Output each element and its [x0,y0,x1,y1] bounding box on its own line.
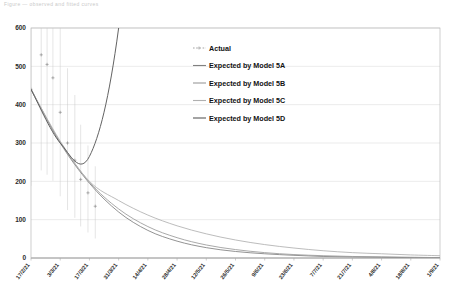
x-tick-label: 18/8/21 [394,262,410,280]
legend-item[interactable]: Expected by Model 5C [193,96,285,105]
y-tick-label: 400 [15,101,26,108]
x-tick-label: 1/9/21 [425,262,439,278]
x-tick-label: 28/4/21 [161,262,177,280]
chart-figure: Figure — observed and fitted curves 0100… [0,0,453,295]
series-curves [31,0,440,258]
legend-item[interactable]: Expected by Model 5A [193,61,285,70]
x-tick-label: 31/3/21 [102,262,118,280]
x-tick-label: 21/7/21 [336,262,352,280]
y-tick-label: 300 [15,139,26,146]
legend-item[interactable]: Expected by Model 5D [193,114,285,123]
y-tick-label: 100 [15,216,26,223]
y-tick-label: 200 [15,178,26,185]
y-tick-label: 0 [22,254,26,261]
line-chart: 0100200300400500600 17/2/213/3/2117/3/21… [0,0,453,295]
legend-item[interactable]: Expected by Model 5B [193,79,285,88]
legend-label: Expected by Model 5C [209,96,285,105]
x-tick-label: 12/5/21 [190,262,206,280]
x-tick-label: 23/6/21 [277,262,293,280]
legend-label: Actual [209,44,231,53]
y-tick-label: 500 [15,63,26,70]
series-actual [29,28,96,239]
x-tick-label: 14/4/21 [131,262,147,280]
legend-label: Expected by Model 5D [209,114,285,123]
x-axis-tick-labels: 17/2/213/3/2117/3/2131/3/2114/4/2128/4/2… [15,262,440,280]
figure-top-caption: Figure — observed and fitted curves [0,0,453,16]
legend-item[interactable]: Actual [193,44,231,53]
legend-label: Expected by Model 5A [209,61,285,70]
x-tick-label: 17/3/21 [73,262,89,280]
chart-legend: ActualExpected by Model 5AExpected by Mo… [193,44,285,123]
x-tick-label: 9/6/21 [250,262,264,278]
x-tick-label: 3/3/21 [46,262,60,278]
y-axis-tick-labels: 0100200300400500600 [15,24,26,261]
x-tick-label: 7/7/21 [309,262,323,278]
x-tick-label: 4/8/21 [367,262,381,278]
x-tick-label: 26/5/21 [219,262,235,280]
x-tick-label: 17/2/21 [15,262,31,280]
y-tick-label: 600 [15,24,26,31]
legend-label: Expected by Model 5B [209,79,285,88]
